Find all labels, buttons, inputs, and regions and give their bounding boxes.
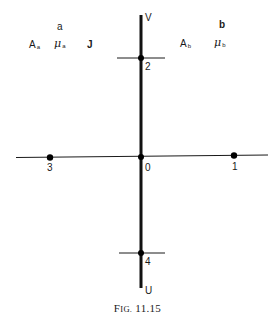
point-3-marker [47, 154, 53, 160]
region-b-mu-subscript: b [222, 42, 225, 48]
region-a-A-symbol: Aa [29, 40, 40, 52]
region-b-title: b [219, 20, 225, 30]
caption-number: 11.15 [135, 302, 161, 314]
region-b-A: A [180, 38, 187, 49]
axis-label-V: V [145, 13, 152, 23]
region-b-mu-symbol: μb [214, 38, 226, 50]
figure-caption: FIG. 11.15 [0, 302, 275, 314]
region-b-A-symbol: Ab [180, 39, 191, 51]
region-b-mu: μ [214, 36, 221, 49]
point-4-marker [138, 250, 144, 256]
region-b-A-subscript: b [188, 43, 191, 49]
region-a-J-label: J [87, 40, 93, 50]
region-a-mu-symbol: μa [54, 39, 66, 51]
region-a-mu: μ [54, 37, 61, 50]
caption-smallcaps: IG. [120, 304, 132, 314]
axis-label-U: U [145, 286, 152, 296]
region-a-mu-subscript: a [62, 43, 65, 49]
point-label-1: 1 [232, 162, 238, 172]
region-a-A-subscript: a [37, 44, 40, 50]
region-a-A: A [29, 39, 36, 50]
point-0-marker [138, 154, 144, 160]
region-a-title: a [57, 22, 63, 32]
point-label-4: 4 [145, 257, 151, 267]
point-2-marker [138, 55, 144, 61]
point-label-0: 0 [145, 163, 151, 173]
point-label-2: 2 [145, 62, 151, 72]
point-1-marker [231, 152, 237, 158]
point-label-3: 3 [47, 163, 53, 173]
diagram-canvas [0, 0, 275, 318]
